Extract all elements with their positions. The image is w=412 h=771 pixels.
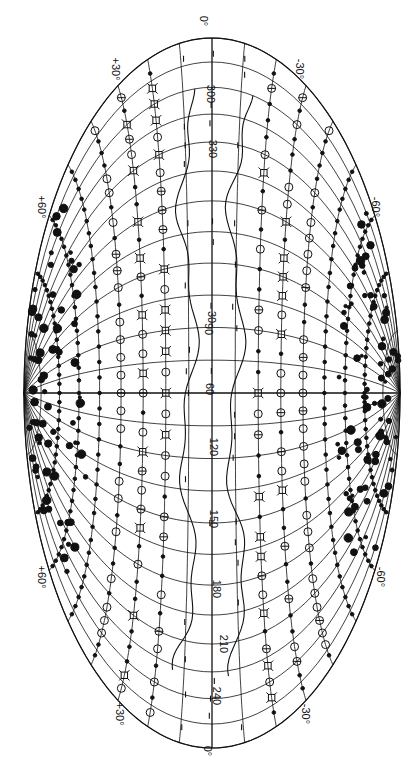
longitude-label: 300 (205, 85, 217, 103)
longitude-label: 180 (211, 580, 223, 598)
longitude-label: 120 (208, 438, 220, 456)
longitude-label: 30 (206, 311, 218, 323)
latitude-label: +60° (36, 565, 48, 588)
longitude-label: 0° (198, 16, 210, 27)
latitude-label: +60° (36, 195, 48, 218)
latitude-label: -60° (375, 567, 387, 587)
longitude-label: 240 (211, 687, 223, 705)
longitude-label: 330 (207, 140, 219, 158)
latitude-label: +30° (110, 57, 122, 80)
longitude-label: 90 (203, 323, 215, 335)
latitude-label: -60° (370, 197, 382, 217)
longitude-label: 60 (204, 383, 216, 395)
latitude-label: -30° (294, 59, 306, 79)
longitude-label: 0° (202, 746, 214, 757)
longitude-label: 150 (208, 510, 220, 528)
latitude-label: +30° (114, 702, 126, 725)
longitude-label: 210 (218, 635, 230, 653)
latitude-label: -30° (300, 704, 312, 724)
